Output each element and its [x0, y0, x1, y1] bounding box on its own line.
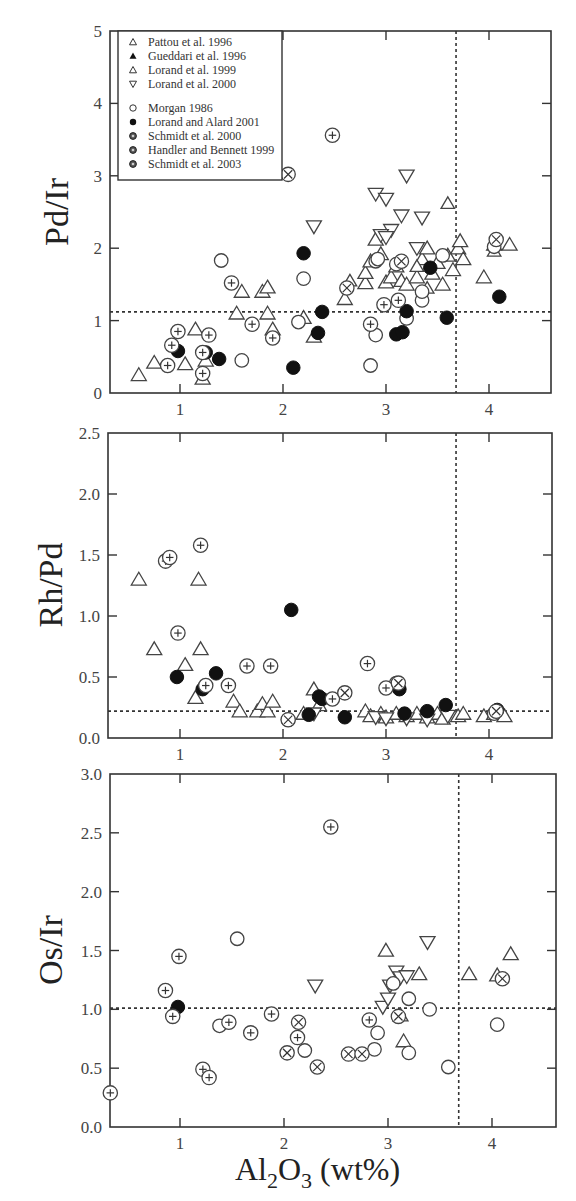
- legend-label: Lorand et al. 2000: [148, 77, 236, 91]
- triangle-open-marker: [191, 572, 206, 585]
- y-tick-label: 2.5: [79, 424, 100, 443]
- y-tick-label: 1.5: [81, 942, 102, 961]
- circle-filled-marker: [440, 311, 454, 325]
- circle-filled-marker: [311, 326, 325, 340]
- circle-cross-marker: [355, 1047, 369, 1061]
- y-tick-label: 3.0: [81, 765, 102, 784]
- triangle-open-marker: [178, 357, 193, 370]
- x-tick-label: 4: [488, 1134, 497, 1153]
- circle-cross-marker: [310, 1060, 324, 1074]
- circle-filled-marker: [212, 352, 226, 366]
- triangle-open-marker: [476, 270, 491, 283]
- circle-plus-marker: [362, 1013, 376, 1027]
- y-tick-label: 1: [94, 312, 103, 331]
- legend-label: Morgan 1986: [148, 101, 213, 115]
- panel-os-ir: 0.00.51.01.52.02.53.01234Os/Ir: [32, 765, 556, 1153]
- y-tick-label: 2.0: [81, 883, 102, 902]
- triangle-open-marker: [188, 322, 203, 335]
- triangle-open-marker: [147, 642, 162, 655]
- triangle-open-marker: [131, 368, 146, 381]
- circle-filled-marker: [302, 708, 316, 722]
- circle-open-marker: [292, 315, 306, 329]
- series-handler-and-bennett-1999: [158, 538, 393, 706]
- circle-plus-marker: [202, 1070, 216, 1084]
- circle-cross-marker: [340, 281, 354, 295]
- y-tick-label: 2: [94, 239, 103, 258]
- legend-entry: Lorand and Alard 2001: [130, 115, 260, 129]
- circle-plus-marker: [224, 276, 238, 290]
- circle-open-marker: [230, 932, 244, 946]
- y-tick-label: 0.5: [81, 1059, 102, 1078]
- x-tick-label: 1: [176, 745, 185, 764]
- circle-plus-marker: [266, 331, 280, 345]
- triangle-open-marker: [503, 947, 518, 960]
- y-tick-label: 0.0: [81, 1118, 102, 1137]
- circle-plus-marker: [196, 366, 210, 380]
- circle-cross-marker: [391, 1009, 405, 1023]
- circle-cross-marker: [394, 254, 408, 268]
- y-axis-label: Pd/Ir: [38, 177, 75, 246]
- y-tick-label: 4: [94, 94, 103, 113]
- circle-open-marker: [490, 1018, 504, 1032]
- circle-plus-marker: [264, 1007, 278, 1021]
- circle-open-marker: [214, 254, 228, 268]
- circle-cross-marker: [341, 1047, 355, 1061]
- triangle-down-open-marker: [394, 210, 409, 223]
- circle-open-marker: [371, 252, 385, 266]
- triangle-open-marker: [193, 642, 208, 655]
- legend-label: Lorand and Alard 2001: [148, 115, 260, 129]
- x-tick-label: 1: [176, 1134, 185, 1153]
- triangle-open-marker: [462, 967, 477, 980]
- circle-cross-marker: [281, 713, 295, 727]
- y-tick-label: 0: [94, 384, 103, 403]
- triangle-down-open-marker: [306, 221, 321, 234]
- triangle-open-marker: [502, 237, 517, 250]
- x-axis-label: Al2O3 (wt%): [235, 1151, 400, 1193]
- circle-plus-marker: [163, 550, 177, 564]
- circle-open-marker: [402, 992, 416, 1006]
- circle-plus-marker: [245, 317, 259, 331]
- y-axis-label: Rh/Pd: [32, 542, 69, 627]
- circle-filled-marker: [398, 707, 412, 721]
- circle-plus-marker: [363, 317, 377, 331]
- circle-filled-marker: [439, 698, 453, 712]
- x-tick-label: 3: [382, 400, 391, 419]
- x-tick-label: 1: [176, 400, 185, 419]
- circle-plus-marker: [202, 328, 216, 342]
- circle-cross-marker: [489, 704, 503, 718]
- circle-filled-marker: [420, 704, 434, 718]
- circle-cross-marker: [495, 972, 509, 986]
- y-tick-label: 1.5: [79, 546, 100, 565]
- circle-cross-marker: [280, 1046, 294, 1060]
- circle-plus-marker: [377, 298, 391, 312]
- circle-open-marker: [371, 1026, 385, 1040]
- figure: 0123451234Pd/Ir0.00.51.01.52.02.51234Rh/…: [0, 0, 576, 1201]
- y-tick-label: 1.0: [79, 607, 100, 626]
- y-tick-label: 3: [94, 167, 103, 186]
- triangle-open-marker: [265, 694, 280, 707]
- legend-label: Handler and Bennett 1999: [148, 143, 274, 157]
- circle-open-marker: [364, 359, 378, 373]
- circle-filled-marker: [424, 261, 438, 275]
- triangle-open-marker: [131, 572, 146, 585]
- circle-filled-marker: [338, 711, 352, 725]
- legend-entry: Handler and Bennett 1999: [130, 143, 275, 157]
- circle-open-marker: [423, 1003, 437, 1017]
- circle-plus-marker: [161, 358, 175, 372]
- y-tick-label: 0.0: [79, 729, 100, 748]
- y-tick-label: 2.5: [81, 824, 102, 843]
- triangle-open-marker: [147, 355, 162, 368]
- circle-plus-marker: [290, 1030, 304, 1044]
- circle-open-marker: [298, 1044, 312, 1058]
- triangle-down-open-marker: [379, 193, 394, 206]
- circle-cross-marker: [391, 676, 405, 690]
- panels: 0123451234Pd/Ir0.00.51.01.52.02.51234Rh/…: [32, 22, 556, 1153]
- circle-open-marker: [436, 249, 450, 263]
- circle-plus-marker: [171, 324, 185, 338]
- circle-plus-marker: [193, 538, 207, 552]
- circle-cross-marker: [281, 167, 295, 181]
- circle-plus-marker: [324, 820, 338, 834]
- circle-plus-marker: [171, 626, 185, 640]
- circle-plus-marker: [221, 678, 235, 692]
- circle-plus-marker: [222, 1015, 236, 1029]
